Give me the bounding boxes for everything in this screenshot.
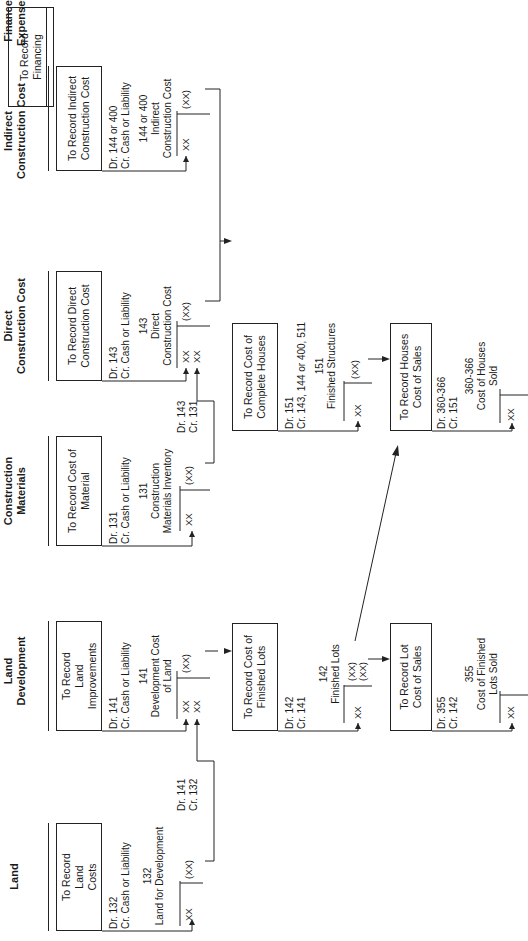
connector-lines [0, 0, 528, 941]
flow-diagram: Land Land Development Construction Mater… [0, 0, 528, 941]
